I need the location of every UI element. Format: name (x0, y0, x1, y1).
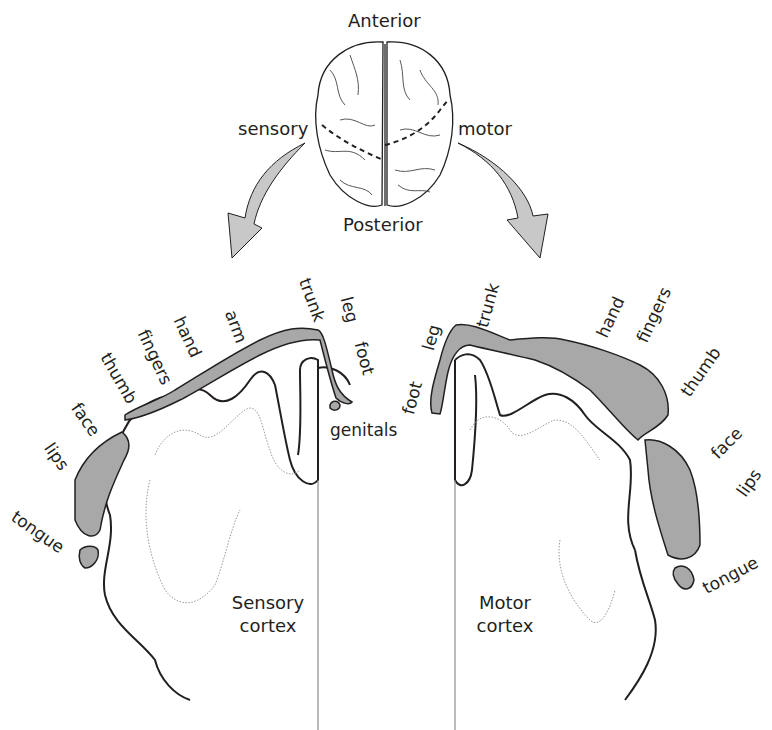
motor-homunculus-icon (431, 324, 700, 588)
motor-arrow-label: motor (458, 120, 512, 138)
motor-cortex-label: Motor cortex (470, 592, 540, 637)
anterior-label: Anterior (348, 12, 421, 30)
sensory-cortex-label: Sensory cortex (228, 592, 308, 637)
sensory-arrow-icon (228, 143, 305, 258)
brain-top-view-icon (316, 42, 453, 206)
sensory-label-genitals: genitals (330, 422, 397, 439)
sensory-arrow-label: sensory (238, 120, 308, 138)
posterior-label: Posterior (343, 216, 423, 234)
motor-cortex-label-line2: cortex (470, 615, 540, 638)
sensory-cortex-label-line1: Sensory (228, 592, 308, 615)
sensory-cortex-inner (146, 408, 300, 603)
motor-cortex-label-line1: Motor (470, 592, 540, 615)
sensory-cortex-label-line2: cortex (228, 615, 308, 638)
motor-arrow-icon (458, 143, 548, 258)
homunculus-diagram: Anterior Posterior sensory motor genital… (0, 0, 772, 730)
